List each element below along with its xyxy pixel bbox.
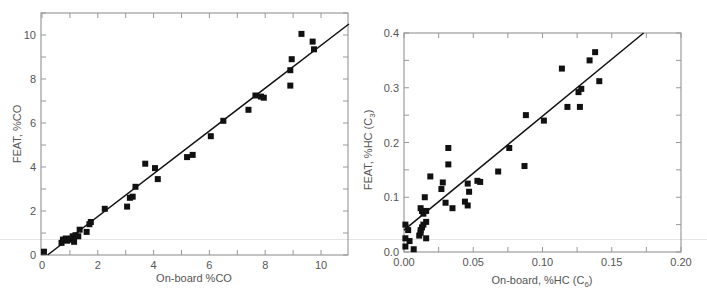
x-tick-label: 0.05 bbox=[463, 256, 484, 268]
data-point-square bbox=[443, 200, 449, 206]
hc-x-axis-title: On-board, %HC (C6) bbox=[491, 274, 592, 289]
data-point-square bbox=[298, 31, 304, 37]
co-data-points bbox=[41, 31, 317, 255]
data-point-square bbox=[287, 67, 293, 73]
data-point-square bbox=[523, 112, 529, 118]
data-point-square bbox=[310, 39, 316, 45]
data-point-square bbox=[506, 145, 512, 151]
data-point-square bbox=[411, 246, 417, 252]
data-point-square bbox=[190, 152, 196, 158]
data-point-square bbox=[88, 219, 94, 225]
data-point-square bbox=[465, 181, 471, 187]
data-point-square bbox=[287, 83, 293, 89]
data-point-square bbox=[449, 205, 455, 211]
x-tick-label: 10 bbox=[315, 259, 327, 271]
data-point-square bbox=[132, 184, 138, 190]
data-point-square bbox=[440, 179, 446, 185]
data-point-square bbox=[466, 189, 472, 195]
data-point-square bbox=[402, 244, 408, 250]
data-point-square bbox=[252, 93, 258, 99]
data-point-square bbox=[423, 235, 429, 241]
data-point-square bbox=[142, 161, 148, 167]
y-tick-label: 2 bbox=[30, 205, 36, 217]
data-point-square bbox=[130, 194, 136, 200]
y-tick-label: 0.2 bbox=[384, 137, 399, 149]
hc-scatter-chart: 0.000.050.100.150.20 0.00.10.20.30.4 On-… bbox=[355, 0, 707, 299]
hc-y-axis-title: FEAT, %HC (C3) bbox=[362, 110, 377, 191]
data-point-square bbox=[407, 238, 413, 244]
data-point-square bbox=[587, 57, 593, 63]
regression-line bbox=[404, 33, 644, 230]
co-y-axis-title: FEAT, %CO bbox=[11, 104, 23, 163]
y-tick-label: 4 bbox=[30, 161, 36, 173]
data-point-square bbox=[465, 202, 471, 208]
y-tick-label: 0.3 bbox=[384, 82, 399, 94]
data-point-square bbox=[71, 239, 77, 245]
x-tick-label: 2 bbox=[95, 259, 101, 271]
data-point-square bbox=[84, 229, 90, 235]
y-tick-label: 8 bbox=[30, 73, 36, 85]
data-point-square bbox=[311, 46, 317, 52]
x-tick-label: 0.10 bbox=[532, 256, 553, 268]
x-tick-label: 8 bbox=[262, 259, 268, 271]
data-point-square bbox=[521, 163, 527, 169]
data-point-square bbox=[445, 161, 451, 167]
data-point-square bbox=[245, 107, 251, 113]
x-tick-label: 0 bbox=[39, 259, 45, 271]
data-point-square bbox=[559, 66, 565, 72]
data-point-square bbox=[495, 169, 501, 175]
x-tick-label: 0.15 bbox=[601, 256, 622, 268]
data-point-square bbox=[445, 145, 451, 151]
data-point-square bbox=[592, 49, 598, 55]
data-point-square bbox=[208, 133, 214, 139]
co-scatter-svg: 0246810 0246810 On-board %CO FEAT, %CO bbox=[0, 0, 355, 299]
data-point-square bbox=[184, 154, 190, 160]
data-point-square bbox=[438, 186, 444, 192]
y-tick-label: 0.0 bbox=[384, 246, 399, 258]
x-tick-label: 4 bbox=[151, 259, 157, 271]
co-y-ticks: 0246810 bbox=[24, 13, 348, 261]
data-point-square bbox=[402, 222, 408, 228]
data-point-square bbox=[541, 118, 547, 124]
hc-data-points bbox=[402, 49, 602, 252]
data-point-square bbox=[578, 86, 584, 92]
data-point-square bbox=[422, 194, 428, 200]
data-point-square bbox=[564, 104, 570, 110]
data-point-square bbox=[577, 104, 583, 110]
hc-scatter-svg: 0.000.050.100.150.20 0.00.10.20.30.4 On-… bbox=[355, 0, 707, 299]
plot-border bbox=[404, 33, 681, 252]
hc-fit-line bbox=[404, 33, 644, 230]
data-point-square bbox=[102, 206, 108, 212]
data-point-square bbox=[220, 118, 226, 124]
data-point-square bbox=[41, 249, 47, 255]
co-x-axis-title: On-board %CO bbox=[156, 272, 232, 284]
data-point-square bbox=[405, 227, 411, 233]
co-scatter-chart: 0246810 0246810 On-board %CO FEAT, %CO bbox=[0, 0, 355, 299]
data-point-square bbox=[477, 179, 483, 185]
data-point-square bbox=[124, 204, 130, 210]
data-point-square bbox=[152, 165, 158, 171]
y-tick-label: 10 bbox=[24, 29, 36, 41]
hc-plot-frame bbox=[404, 33, 681, 252]
y-tick-label: 0 bbox=[30, 249, 36, 261]
data-point-square bbox=[77, 227, 83, 233]
x-tick-label: 6 bbox=[206, 259, 212, 271]
data-point-square bbox=[423, 219, 429, 225]
co-plot-frame bbox=[41, 13, 348, 255]
y-tick-label: 0.1 bbox=[384, 191, 399, 203]
y-tick-label: 6 bbox=[30, 117, 36, 129]
y-tick-label: 0.4 bbox=[384, 27, 399, 39]
data-point-square bbox=[289, 56, 295, 62]
data-point-square bbox=[427, 173, 433, 179]
data-point-square bbox=[155, 176, 161, 182]
x-tick-label: 0.20 bbox=[670, 256, 691, 268]
plot-border bbox=[41, 13, 348, 255]
hc-x-ticks: 0.000.050.100.150.20 bbox=[393, 33, 691, 268]
data-point-square bbox=[423, 208, 429, 214]
data-point-square bbox=[75, 233, 81, 239]
data-point-square bbox=[261, 95, 267, 101]
data-point-square bbox=[596, 78, 602, 84]
